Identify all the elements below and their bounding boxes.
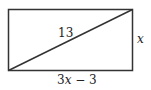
diagonal-label: 13 xyxy=(58,26,73,40)
side-label: x xyxy=(137,32,144,46)
bottom-label: 3x − 3 xyxy=(57,73,97,87)
rectangle-diagram: 13 x 3x − 3 xyxy=(0,0,151,90)
diagonal-line xyxy=(9,10,133,71)
